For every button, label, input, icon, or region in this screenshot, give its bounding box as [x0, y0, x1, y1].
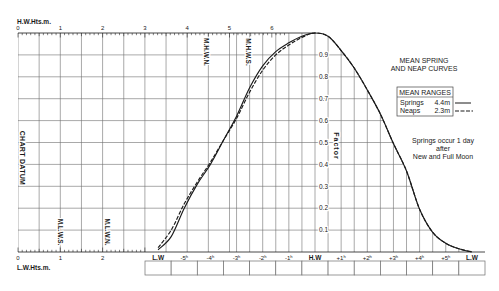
time-entry-box: [328, 261, 354, 275]
chart-datum-label: CHART DATUM: [19, 131, 26, 186]
springs-note-line-1: Springs occur 1 day: [412, 137, 474, 145]
time-tick-label: -3ʰ: [233, 255, 241, 261]
legend-neaps-label: Neaps: [400, 107, 421, 115]
time-tick-label: +3ʰ: [389, 255, 398, 261]
legend-neaps-range: 2.3m: [434, 107, 450, 114]
hw-height-tick-label: 2: [101, 25, 105, 31]
time-entry-box: [302, 261, 328, 275]
chart-title-line-2: AND NEAP CURVES: [391, 65, 458, 72]
factor-tick-label: 0.5: [319, 139, 328, 146]
legend-title: MEAN RANGES: [399, 89, 451, 96]
time-entry-box: [171, 261, 197, 275]
hw-height-tick-label: 0: [16, 25, 20, 31]
time-tick-label: -4ʰ: [207, 255, 215, 261]
time-tick-label: L.W: [466, 254, 479, 261]
time-entry-box: [250, 261, 276, 275]
factor-tick-label: 0.1: [319, 226, 328, 233]
time-entry-box: [407, 261, 433, 275]
time-entry-box: [354, 261, 380, 275]
lw-heights-scale-label: L.W.Hts.m.: [17, 264, 50, 271]
springs-note-line-3: New and Full Moon: [413, 153, 473, 160]
time-tick-label: +5ʰ: [441, 255, 450, 261]
time-entry-box: [433, 261, 459, 275]
tidal-curve-chart: 0123456012L.W-5ʰ-4ʰ-3ʰ-2ʰ-1ʰH.W+1ʰ+2ʰ+3ʰ…: [0, 0, 499, 291]
factor-tick-label: 0.3: [319, 183, 328, 190]
lw-height-tick-label: 2: [101, 255, 105, 261]
time-entry-box: [223, 261, 249, 275]
factor-tick-label: 0.7: [319, 95, 328, 102]
factor-tick-label: 0.8: [319, 73, 328, 80]
time-tick-label: +4ʰ: [415, 255, 424, 261]
time-tick-label: -5ʰ: [180, 255, 188, 261]
time-entry-box: [145, 261, 171, 275]
time-entry-box: [197, 261, 223, 275]
hw-height-tick-label: 4: [186, 25, 190, 31]
reference-level-label: M.H.W.N.: [203, 38, 210, 66]
time-entry-boxes: [145, 261, 485, 275]
time-tick-label: +2ʰ: [363, 255, 372, 261]
reference-level-label: M.L.W.N.: [104, 218, 111, 245]
time-tick-label: L.W: [152, 254, 165, 261]
time-entry-box: [459, 261, 485, 275]
time-tick-label: -2ʰ: [259, 255, 267, 261]
legend-springs-label: Springs: [400, 99, 424, 107]
factor-axis-title: Factor: [333, 132, 340, 159]
time-tick-label: -1ʰ: [285, 255, 293, 261]
time-tick-label: H.W: [309, 254, 323, 261]
time-entry-box: [276, 261, 302, 275]
reference-level-label: M.L.W.S.: [57, 219, 64, 246]
lw-height-tick-label: 1: [59, 255, 63, 261]
chart-title-line-1: MEAN SPRING: [399, 57, 448, 64]
factor-tick-label: 0.6: [319, 117, 328, 124]
hw-height-tick-label: 1: [59, 25, 63, 31]
time-entry-box: [380, 261, 406, 275]
legend: MEAN RANGES Springs 4.4m Neaps 2.3m: [397, 87, 473, 116]
hw-height-tick-label: 6: [270, 25, 274, 31]
reference-level-label: M.H.W.S.: [245, 38, 252, 66]
factor-tick-label: 0.2: [319, 204, 328, 211]
time-tick-label: +1ʰ: [337, 255, 346, 261]
hw-height-tick-label: 3: [143, 25, 147, 31]
lw-height-tick-label: 0: [16, 255, 20, 261]
hw-height-tick-label: 5: [228, 25, 232, 31]
springs-note-line-2: after: [436, 145, 451, 152]
factor-tick-label: 0.4: [319, 161, 328, 168]
legend-springs-range: 4.4m: [434, 99, 450, 106]
factor-tick-label: 0.9: [319, 51, 328, 58]
hw-heights-scale-label: H.W.Hts.m.: [17, 18, 51, 25]
